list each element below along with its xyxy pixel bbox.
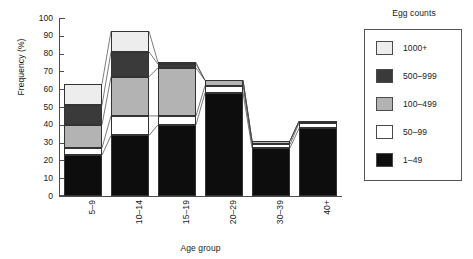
bar-segment-50–99 — [205, 86, 243, 93]
x-axis-tick-labels: 5–910–1415–1920–2930–3940+ — [59, 200, 342, 240]
y-tick-label-30: 30 — [29, 138, 53, 147]
bar-segment-50–99 — [252, 144, 290, 148]
y-axis-title: Frequency (%) — [16, 12, 26, 122]
legend-box: 1000+500–999100–49950–991–49 — [364, 29, 462, 181]
y-tick-label-10: 10 — [29, 174, 53, 183]
x-tick-label-15–19: 15–19 — [181, 200, 191, 224]
bar-segment-1–49 — [205, 93, 243, 196]
stacked-bar-chart-figure: Frequency (%) 1009080706050403020100 5–9… — [0, 0, 473, 259]
x-tick-label-20–29: 20–29 — [228, 200, 238, 224]
bar-segment-50–99 — [158, 116, 196, 125]
bar-segment-50–99 — [64, 148, 102, 155]
bar-segment-1000+ — [111, 31, 149, 51]
legend-swatch-icon — [376, 97, 393, 111]
bar-segment-50–99 — [111, 116, 149, 136]
legend-item-100–499[interactable]: 100–499 — [376, 95, 437, 113]
y-tick-label-20: 20 — [29, 156, 53, 165]
legend-item-label: 500–999 — [403, 71, 437, 81]
y-tick-label-40: 40 — [29, 120, 53, 129]
y-tick-label-70: 70 — [29, 67, 53, 76]
bar-20–29 — [205, 80, 243, 196]
y-axis-tick-labels: 1009080706050403020100 — [29, 0, 53, 259]
bar-30–39 — [252, 141, 290, 196]
bar-40+ — [299, 121, 337, 196]
legend-item-label: 1–49 — [403, 155, 422, 165]
x-tick-label-40+: 40+ — [322, 200, 332, 215]
legend-item-50–99[interactable]: 50–99 — [376, 123, 427, 141]
legend-swatch-icon — [376, 153, 393, 167]
bar-segment-1000+ — [64, 84, 102, 105]
legend-item-1–49[interactable]: 1–49 — [376, 151, 422, 169]
y-tick-label-60: 60 — [29, 85, 53, 94]
x-tick-label-30–39: 30–39 — [275, 200, 285, 224]
legend: Egg counts 1000+500–999100–49950–991–49 — [364, 29, 464, 181]
x-tick-label-5–9: 5–9 — [87, 200, 97, 214]
bar-segment-1000+ — [158, 62, 196, 64]
legend-item-label: 100–499 — [403, 99, 437, 109]
bar-segment-100–499 — [111, 77, 149, 116]
y-tick-label-90: 90 — [29, 31, 53, 40]
bar-segment-100–499 — [252, 141, 290, 145]
legend-item-label: 50–99 — [403, 127, 427, 137]
x-tick-label-10–14: 10–14 — [134, 200, 144, 224]
legend-item-1000+[interactable]: 1000+ — [376, 39, 427, 57]
bar-segment-500–999 — [111, 52, 149, 77]
bar-segment-1–49 — [252, 148, 290, 196]
legend-title: Egg counts — [364, 8, 464, 18]
bar-15–19 — [158, 63, 196, 197]
bar-segment-500–999 — [64, 105, 102, 125]
bar-segment-100–499 — [205, 80, 243, 85]
y-tick-label-50: 50 — [29, 103, 53, 112]
x-axis-title: Age group — [59, 243, 342, 253]
bar-segment-50–99 — [299, 123, 337, 128]
legend-item-500–999[interactable]: 500–999 — [376, 67, 437, 85]
bar-5–9 — [64, 84, 102, 196]
bar-segment-1–49 — [64, 155, 102, 196]
bar-segment-1–49 — [111, 135, 149, 196]
bar-segment-100–499 — [158, 68, 196, 116]
bar-10–14 — [111, 31, 149, 196]
legend-swatch-icon — [376, 69, 393, 83]
plot-area: Frequency (%) 1009080706050403020100 5–9… — [0, 0, 350, 259]
bar-segment-1–49 — [299, 128, 337, 196]
y-tick-label-80: 80 — [29, 49, 53, 58]
bar-segment-1–49 — [158, 125, 196, 196]
bar-segment-100–499 — [64, 125, 102, 148]
y-tick-label-0: 0 — [29, 192, 53, 201]
legend-swatch-icon — [376, 41, 393, 55]
legend-item-label: 1000+ — [403, 43, 427, 53]
bar-segment-500–999 — [158, 64, 196, 68]
legend-swatch-icon — [376, 125, 393, 139]
bar-segment-100–499 — [299, 121, 337, 123]
x-axis-line — [59, 196, 342, 197]
y-tick-label-100: 100 — [29, 14, 53, 23]
bar-series-container — [59, 18, 342, 196]
